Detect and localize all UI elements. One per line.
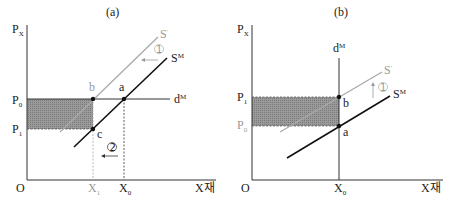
point-label-a: a: [343, 125, 349, 139]
shaded-area: [252, 97, 339, 126]
panel-a-title: (a): [106, 5, 119, 19]
step-2-label: 2: [110, 142, 116, 153]
price-label-p1: P1: [237, 90, 248, 106]
arrow-up-icon: [371, 82, 375, 86]
point-b: [91, 97, 95, 101]
point-label-b: b: [343, 96, 349, 110]
y-axis-label: PX: [12, 22, 24, 38]
supply-curve-s-prime: [60, 37, 158, 132]
y-axis-label: PX: [237, 22, 249, 38]
quantity-label-x0: X0: [334, 181, 347, 197]
point-label-a: a: [119, 80, 125, 94]
origin-label: O: [241, 181, 250, 195]
curve-label-s-prime: S': [384, 63, 392, 77]
arrow-left-icon: [141, 58, 145, 62]
point-b: [337, 95, 341, 99]
point-label-c: c: [97, 127, 102, 141]
shaded-area: [27, 99, 93, 129]
price-label-p1: P1: [12, 122, 23, 138]
x-axis-label: X재: [195, 181, 215, 195]
panel-b-title: (b): [334, 5, 348, 19]
arrow-left-icon: [101, 154, 105, 158]
panel-b: (b) PX O X재 dM S' SM 1 b a P1 P0: [237, 5, 443, 197]
quantity-label-x1: X1: [88, 181, 101, 197]
origin-label: O: [16, 181, 25, 195]
x-axis-label: X재: [421, 181, 441, 195]
curve-label-dM: dM: [174, 92, 187, 106]
point-label-b: b: [89, 80, 95, 94]
point-a: [122, 97, 126, 101]
price-label-p0: P0: [237, 118, 248, 134]
curve-label-dM: dM: [333, 41, 346, 55]
step-1-label: 1: [156, 44, 162, 55]
step-1-label: 1: [380, 82, 386, 93]
point-c: [91, 127, 95, 131]
curve-label-sM: SM: [171, 51, 185, 65]
curve-label-s-prime: S': [160, 27, 168, 41]
point-a: [337, 124, 341, 128]
price-label-p0: P0: [12, 93, 23, 109]
panel-a: (a) PX O X재 dM S' SM 1 2: [12, 5, 216, 197]
curve-label-sM: SM: [393, 87, 407, 101]
quantity-label-x0: X0: [119, 181, 132, 197]
